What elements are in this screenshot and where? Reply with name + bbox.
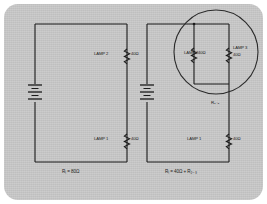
right-lamp3-resistance: 40Ω	[233, 53, 241, 57]
right-parallel-node-dot	[193, 23, 196, 26]
right-lamp2-label: LAMP 2	[184, 51, 198, 55]
right-total-resistance-label: Rₜ = 40Ω + R₂₋₃	[165, 170, 197, 175]
circuit-right-svg	[4, 4, 263, 200]
right-lamp1-resistance: 40Ω	[233, 137, 241, 141]
right-lamp2-resistance: 40Ω	[198, 51, 206, 55]
right-lamp1-label: LAMP 1	[187, 137, 201, 141]
parallel-group-label: R₂₋₃	[211, 101, 219, 105]
right-lamp3-label: LAMP 3	[233, 46, 247, 50]
right-battery-icon	[140, 85, 154, 99]
figure-panel: LAMP 2 40Ω LAMP 1 40Ω Rₜ = 80Ω	[4, 4, 263, 200]
